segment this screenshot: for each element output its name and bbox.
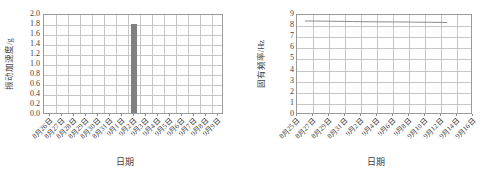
right-chart-x-tickmark	[408, 114, 409, 116]
left-chart-y-axis-title: 振动加速度/g	[2, 29, 14, 99]
left-chart-y-tick: 0.8	[30, 70, 40, 78]
left-chart-y-tick: 2.0	[30, 10, 40, 18]
left-chart-gridline-vertical	[176, 15, 177, 113]
left-chart-x-tickmark	[205, 114, 206, 116]
right-chart-x-tickmark	[392, 114, 393, 116]
right-chart-x-tickmark	[296, 114, 297, 116]
right-chart-x-tickmark	[456, 114, 457, 116]
left-chart-y-tick-labels: 0.00.20.40.60.81.01.21.41.61.82.0	[18, 14, 40, 114]
left-chart-gridline-vertical	[104, 15, 105, 113]
left-chart-y-tick: 1.6	[30, 30, 40, 38]
left-chart-gridline-vertical	[140, 15, 141, 113]
right-chart-y-tick: 8	[290, 21, 294, 29]
left-chart-x-axis-title: 日期	[0, 155, 250, 168]
right-chart-x-tickmark	[344, 114, 345, 116]
left-chart-x-tickmark	[73, 114, 74, 116]
right-chart-y-tick: 9	[290, 10, 294, 18]
left-chart-y-tick: 1.0	[30, 60, 40, 68]
figure-container: 振动加速度/g 0.00.20.40.60.81.01.21.41.61.82.…	[0, 0, 501, 175]
vibration-acceleration-chart: 振动加速度/g 0.00.20.40.60.81.01.21.41.61.82.…	[0, 0, 250, 175]
left-chart-gridline-vertical	[200, 15, 201, 113]
right-chart-y-tick: 7	[290, 32, 294, 40]
right-chart-x-axis-title: 日期	[250, 155, 501, 168]
left-chart-gridline-vertical	[128, 15, 129, 113]
left-chart-y-tick: 0.2	[30, 100, 40, 108]
right-chart-y-tick: 3	[290, 77, 294, 85]
right-chart-y-tick: 2	[290, 88, 294, 96]
left-chart-y-tick: 1.8	[30, 20, 40, 28]
left-chart-gridline-vertical	[164, 15, 165, 113]
right-chart-x-tickmark	[424, 114, 425, 116]
left-chart-y-tick: 0.6	[30, 80, 40, 88]
natural-frequency-chart: 固有频率/Hz 0123456789 8月25日8月27日8月29日8月31日9…	[250, 0, 501, 175]
right-chart-y-tick: 6	[290, 43, 294, 51]
right-chart-x-tickmark	[328, 114, 329, 116]
left-chart-y-tick: 1.2	[30, 50, 40, 58]
right-chart-x-tickmark	[440, 114, 441, 116]
left-chart-x-tickmark	[97, 114, 98, 116]
left-chart-x-tickmark	[133, 114, 134, 116]
right-chart-x-tickmark	[376, 114, 377, 116]
left-chart-x-tickmark	[181, 114, 182, 116]
left-chart-gridline-vertical	[80, 15, 81, 113]
left-chart-bar	[131, 24, 136, 114]
left-chart-x-tickmark	[61, 114, 62, 116]
left-chart-y-tick: 0.0	[30, 110, 40, 118]
right-chart-y-tick: 0	[290, 110, 294, 118]
left-chart-y-tick: 1.4	[30, 40, 40, 48]
left-chart-x-tickmark	[157, 114, 158, 116]
left-chart-x-tickmark	[121, 114, 122, 116]
right-chart-y-tick-labels: 0123456789	[272, 14, 294, 114]
right-chart-x-tickmark	[312, 114, 313, 116]
left-chart-x-tickmark	[85, 114, 86, 116]
right-chart-series	[297, 15, 471, 113]
left-chart-gridline-vertical	[212, 15, 213, 113]
left-chart-gridline-vertical	[56, 15, 57, 113]
left-chart-x-tickmark	[193, 114, 194, 116]
left-chart-x-tickmark	[169, 114, 170, 116]
left-chart-gridline-vertical	[68, 15, 69, 113]
right-chart-y-tick: 4	[290, 66, 294, 74]
right-chart-x-tickmark	[472, 114, 473, 116]
right-chart-y-axis-title: 固有频率/Hz	[254, 29, 266, 99]
right-chart-y-tick: 5	[290, 54, 294, 62]
left-chart-x-tickmark	[145, 114, 146, 116]
left-chart-y-tick: 0.4	[30, 90, 40, 98]
right-chart-plot-area	[296, 14, 472, 114]
left-chart-gridline-vertical	[188, 15, 189, 113]
left-chart-x-tickmark	[109, 114, 110, 116]
left-chart-plot-area	[43, 14, 223, 114]
right-chart-x-tickmark	[360, 114, 361, 116]
left-chart-x-tickmark	[217, 114, 218, 116]
left-chart-x-tickmark	[49, 114, 50, 116]
left-chart-gridline-vertical	[152, 15, 153, 113]
left-chart-gridline-vertical	[92, 15, 93, 113]
right-chart-y-tick: 1	[290, 99, 294, 107]
left-chart-gridline-vertical	[116, 15, 117, 113]
